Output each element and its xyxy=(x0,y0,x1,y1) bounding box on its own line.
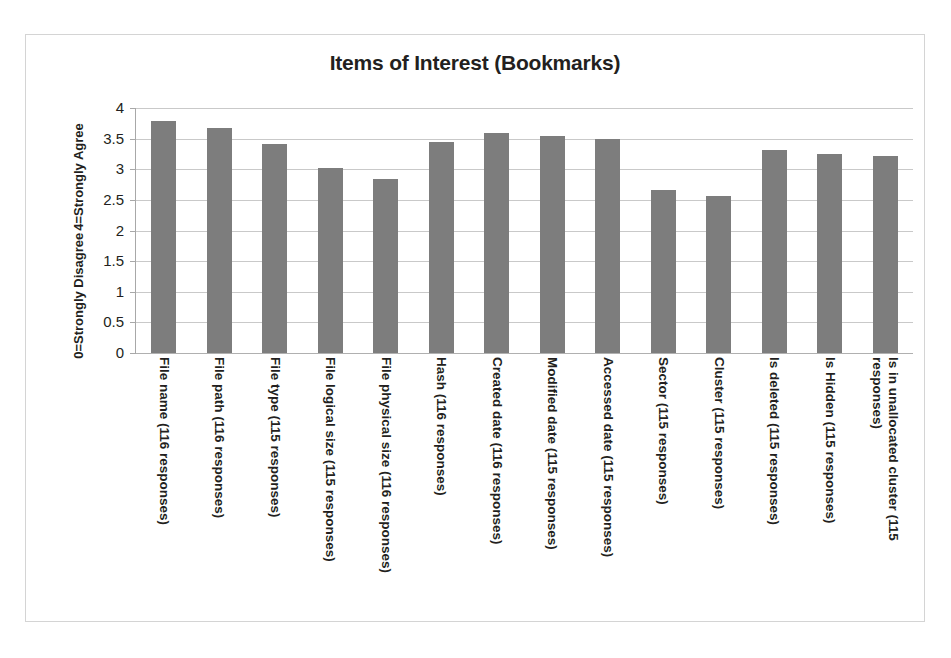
x-axis-tick-label: Cluster (115 responses) xyxy=(711,357,727,602)
y-axis-tick-labels: 43.532.521.510.50 xyxy=(72,108,124,353)
x-axis-tick-label: Accessed date (115 responses) xyxy=(600,357,616,602)
x-axis-tick-label: File path (116 responses) xyxy=(211,357,227,602)
y-axis-tick xyxy=(130,200,136,201)
x-axis-tick-label: Sector (115 responses) xyxy=(655,357,671,602)
x-axis-label-slot: Hash (116 responses) xyxy=(414,357,469,607)
x-axis-label-slot: File type (115 responses) xyxy=(247,357,302,607)
bar xyxy=(318,168,343,353)
y-axis-tick xyxy=(130,292,136,293)
x-axis-label-slot: Created date (116 responses) xyxy=(469,357,524,607)
bar xyxy=(595,139,620,353)
gridline xyxy=(136,261,913,262)
y-axis-tick xyxy=(130,261,136,262)
x-axis-label-slot: File logical size (115 responses) xyxy=(303,357,358,607)
y-axis-tick xyxy=(130,169,136,170)
chart-title: Items of Interest (Bookmarks) xyxy=(26,51,924,75)
x-axis-tick-label: Is deleted (115 responses) xyxy=(766,357,782,602)
bar xyxy=(540,136,565,353)
y-axis-tick-label: 1 xyxy=(80,283,124,300)
x-axis-tick-labels: File name (116 responses)File path (116 … xyxy=(136,357,913,607)
x-axis-tick-label: Is in unallocated cluster (115 responses… xyxy=(869,357,901,602)
bar xyxy=(651,190,676,353)
gridline xyxy=(136,139,913,140)
bar xyxy=(817,154,842,353)
x-axis-label-slot: Accessed date (115 responses) xyxy=(580,357,635,607)
x-axis-label-slot: Cluster (115 responses) xyxy=(691,357,746,607)
y-axis-tick-label: 1.5 xyxy=(80,252,124,269)
chart-frame: Items of Interest (Bookmarks) 0=Strongly… xyxy=(25,34,925,622)
x-axis-label-slot: File path (116 responses) xyxy=(192,357,247,607)
x-axis-label-slot: Is in unallocated cluster (115 responses… xyxy=(858,357,913,607)
bar xyxy=(373,179,398,353)
y-axis-tick-label: 0 xyxy=(80,344,124,361)
x-axis-label-slot: Is Hidden (115 responses) xyxy=(802,357,857,607)
x-axis-label-slot: Sector (115 responses) xyxy=(636,357,691,607)
bar xyxy=(429,142,454,353)
y-axis-tick-label: 0.5 xyxy=(80,313,124,330)
plot-area xyxy=(136,108,913,353)
bar xyxy=(207,128,232,353)
x-axis-label-slot: Is deleted (115 responses) xyxy=(747,357,802,607)
gridline xyxy=(136,200,913,201)
x-axis-tick-label: File name (116 responses) xyxy=(156,357,172,602)
x-axis-tick-label: Modified date (115 responses) xyxy=(544,357,560,602)
y-axis-tick-label: 3.5 xyxy=(80,130,124,147)
gridline xyxy=(136,322,913,323)
x-axis-tick-label: Is Hidden (115 responses) xyxy=(822,357,838,602)
x-axis-tick-label: Hash (116 responses) xyxy=(433,357,449,602)
gridline xyxy=(136,353,913,354)
gridline xyxy=(136,292,913,293)
gridline xyxy=(136,108,913,109)
gridline xyxy=(136,169,913,170)
bar xyxy=(706,196,731,353)
x-axis-tick-label: File type (115 responses) xyxy=(267,357,283,602)
bar xyxy=(873,156,898,353)
y-axis-tick xyxy=(130,139,136,140)
y-axis-tick-label: 2.5 xyxy=(80,191,124,208)
x-axis-tick-label: File physical size (116 responses) xyxy=(378,357,394,602)
y-axis-tick-label: 4 xyxy=(80,99,124,116)
y-axis-tick xyxy=(130,231,136,232)
y-axis-tick-label: 2 xyxy=(80,222,124,239)
y-axis-tick-label: 3 xyxy=(80,160,124,177)
bar xyxy=(762,150,787,353)
bar xyxy=(151,121,176,353)
x-axis-label-slot: Modified date (115 responses) xyxy=(525,357,580,607)
gridline xyxy=(136,231,913,232)
y-axis-tick xyxy=(130,353,136,354)
y-axis-tick xyxy=(130,108,136,109)
bar xyxy=(484,133,509,353)
y-axis-tick xyxy=(130,322,136,323)
bar xyxy=(262,144,287,353)
x-axis-label-slot: File name (116 responses) xyxy=(136,357,191,607)
x-axis-tick-label: Created date (116 responses) xyxy=(489,357,505,602)
x-axis-tick-label: File logical size (115 responses) xyxy=(322,357,338,602)
x-axis-label-slot: File physical size (116 responses) xyxy=(358,357,413,607)
